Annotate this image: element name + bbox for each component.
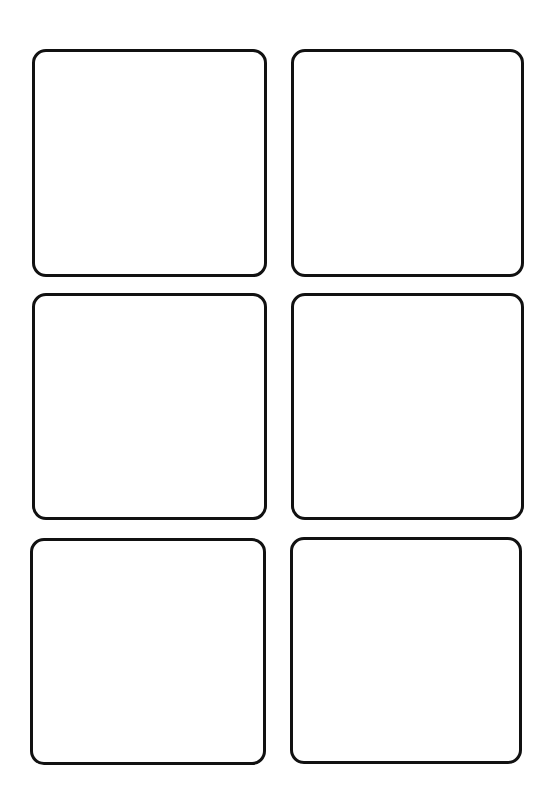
blank-card-row1-col1 [32,49,267,277]
blank-card-row1-col2 [291,49,524,277]
blank-card-row3-col2 [290,537,522,764]
blank-card-row2-col1 [32,293,267,520]
blank-card-row2-col2 [291,293,524,520]
blank-card-row3-col1 [30,538,266,765]
